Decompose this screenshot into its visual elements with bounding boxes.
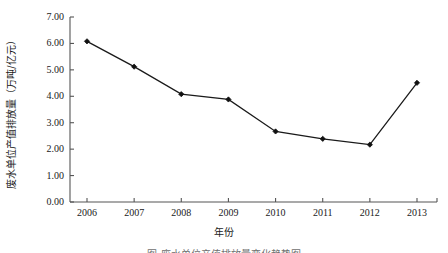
x-tick-label: 2006 bbox=[63, 208, 111, 218]
y-axis-ticks bbox=[70, 17, 74, 202]
figure-caption: 图 废水单位产值排放量变化趋势图 bbox=[0, 246, 448, 253]
y-axis-title: 废水单位产值排放量（万吨/亿元） bbox=[3, 10, 21, 215]
x-axis-title: 年份 bbox=[0, 224, 448, 239]
y-tick-label: 7.00 bbox=[30, 12, 64, 22]
y-tick-label: 3.00 bbox=[30, 118, 64, 128]
y-tick-label: 4.00 bbox=[30, 91, 64, 101]
y-tick-label: 2.00 bbox=[30, 144, 64, 154]
x-tick-label: 2013 bbox=[393, 208, 441, 218]
data-point-markers bbox=[84, 39, 419, 148]
y-tick-label: 6.00 bbox=[30, 38, 64, 48]
x-axis-ticks bbox=[87, 198, 437, 202]
x-tick-label: 2011 bbox=[299, 208, 347, 218]
x-tick-label: 2009 bbox=[204, 208, 252, 218]
y-tick-label: 0.00 bbox=[30, 197, 64, 207]
y-tick-label: 1.00 bbox=[30, 171, 64, 181]
y-tick-label: 5.00 bbox=[30, 65, 64, 75]
x-tick-label: 2007 bbox=[110, 208, 158, 218]
chart-figure: 废水单位产值排放量（万吨/亿元） 0.001.002.003.004.005.0… bbox=[0, 0, 448, 253]
data-series-line bbox=[87, 41, 417, 144]
x-tick-label: 2010 bbox=[252, 208, 300, 218]
x-tick-label: 2012 bbox=[346, 208, 394, 218]
x-tick-label: 2008 bbox=[157, 208, 205, 218]
chart-axes bbox=[70, 17, 437, 202]
